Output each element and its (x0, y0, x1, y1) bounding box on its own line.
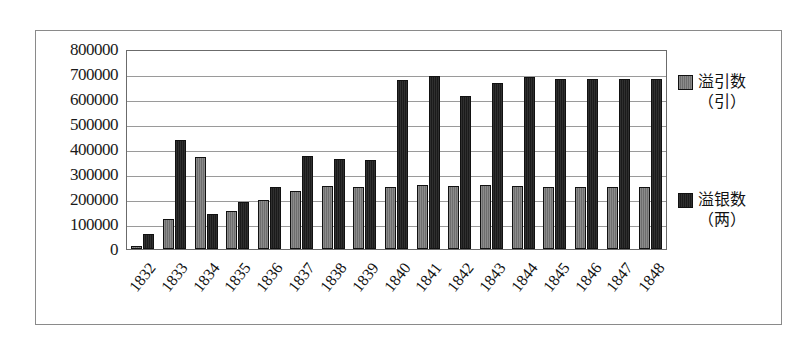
chart-root: 0100000200000300000400000500000600000700… (0, 0, 808, 348)
x-axis-tick-label: 1843 (476, 259, 510, 295)
bar-1844-series0 (512, 186, 523, 249)
bar-1845-series0 (543, 187, 554, 249)
bar-group (317, 51, 349, 249)
bar-group (381, 51, 413, 249)
x-axis-tick: 1832 (126, 252, 158, 312)
x-axis-tick-label: 1833 (158, 259, 192, 295)
x-axis-tick: 1847 (603, 252, 635, 312)
x-axis-tick-label: 1847 (603, 259, 637, 295)
bar-1843-series0 (480, 185, 491, 249)
bar-group (190, 51, 222, 249)
x-axis-tick: 1833 (158, 252, 190, 312)
legend-entry-yinshu: 溢引数 （引） (678, 72, 746, 112)
bar-group (603, 51, 635, 249)
bar-1836-series1 (270, 187, 281, 249)
x-axis-tick: 1839 (349, 252, 381, 312)
bar-1843-series1 (492, 83, 503, 249)
bar-1844-series1 (524, 77, 535, 249)
bar-1842-series1 (460, 96, 471, 249)
bar-1848-series1 (651, 79, 662, 249)
x-axis-tick: 1848 (635, 252, 667, 312)
legend-label-series1: 溢银数 （两） (698, 190, 746, 230)
bar-1846-series1 (587, 79, 598, 249)
y-axis-tick-label: 0 (110, 240, 118, 260)
bar-1835-series0 (226, 211, 237, 249)
legend-swatch-icon-series1 (678, 193, 693, 208)
bar-1835-series1 (238, 202, 249, 249)
y-axis-tick-label: 700000 (70, 65, 118, 85)
legend-label-series1-line2: （两） (698, 210, 746, 230)
y-axis-tick-label: 600000 (70, 90, 118, 110)
bar-group (507, 51, 539, 249)
x-axis-tick-label: 1840 (380, 259, 414, 295)
x-axis-tick-label: 1837 (285, 259, 319, 295)
x-axis-tick: 1846 (572, 252, 604, 312)
x-axis-tick: 1845 (540, 252, 572, 312)
bar-1845-series1 (555, 79, 566, 249)
legend-label-series1-line1: 溢银数 (698, 190, 746, 209)
bar-group (222, 51, 254, 249)
x-axis-tick: 1835 (221, 252, 253, 312)
bar-group (412, 51, 444, 249)
x-axis-labels: 1832183318341835183618371838183918401841… (126, 252, 667, 312)
bar-1834-series0 (195, 157, 206, 249)
bar-1839-series1 (365, 160, 376, 249)
bars-container (127, 51, 666, 249)
bar-group (127, 51, 159, 249)
bar-group (444, 51, 476, 249)
bar-group (539, 51, 571, 249)
x-axis-tick-label: 1836 (253, 259, 287, 295)
x-axis-tick-label: 1834 (189, 259, 223, 295)
bar-1834-series1 (207, 214, 218, 249)
legend-label-series0: 溢引数 （引） (698, 72, 746, 112)
bar-1832-series1 (143, 234, 154, 249)
bar-1837-series0 (290, 191, 301, 249)
y-axis-tick-label: 800000 (70, 40, 118, 60)
bar-1839-series0 (353, 187, 364, 249)
legend-entry-yinliang: 溢银数 （两） (678, 190, 746, 230)
x-axis-tick-label: 1845 (539, 259, 573, 295)
bar-1841-series0 (417, 185, 428, 249)
x-axis-tick-label: 1839 (348, 259, 382, 295)
y-axis-tick-label: 400000 (70, 140, 118, 160)
bar-1842-series0 (448, 186, 459, 249)
bar-1840-series0 (385, 187, 396, 249)
x-axis-tick: 1842 (444, 252, 476, 312)
x-axis-tick-label: 1841 (412, 259, 446, 295)
bar-group (476, 51, 508, 249)
x-axis-tick-label: 1835 (221, 259, 255, 295)
legend-swatch-icon-series0 (678, 75, 693, 90)
y-axis-tick-label: 300000 (70, 165, 118, 185)
bar-1847-series1 (619, 79, 630, 249)
bar-1847-series0 (607, 187, 618, 249)
bar-1840-series1 (397, 80, 408, 249)
bar-group (571, 51, 603, 249)
x-axis-tick-label: 1844 (508, 259, 542, 295)
bar-group (159, 51, 191, 249)
x-axis-tick: 1837 (285, 252, 317, 312)
x-axis-tick: 1836 (253, 252, 285, 312)
x-axis-tick-label: 1846 (571, 259, 605, 295)
bar-1838-series0 (322, 186, 333, 249)
bar-group (634, 51, 666, 249)
bar-1832-series0 (131, 246, 142, 249)
y-axis-tick-label: 200000 (70, 190, 118, 210)
bar-1838-series1 (334, 159, 345, 249)
bar-1836-series0 (258, 200, 269, 250)
y-axis-labels: 0100000200000300000400000500000600000700… (36, 50, 122, 250)
x-axis-tick-label: 1838 (317, 259, 351, 295)
x-axis-tick-label: 1832 (126, 259, 160, 295)
bar-group (254, 51, 286, 249)
bar-1841-series1 (429, 76, 440, 249)
x-axis-tick: 1843 (476, 252, 508, 312)
bar-group (349, 51, 381, 249)
x-axis-tick: 1844 (508, 252, 540, 312)
x-axis-tick: 1841 (412, 252, 444, 312)
legend-label-series0-line2: （引） (698, 92, 746, 112)
plot-wrapper (126, 50, 667, 250)
bar-1833-series0 (163, 219, 174, 249)
bar-group (286, 51, 318, 249)
y-axis-tick-label: 100000 (70, 215, 118, 235)
y-axis-tick-label: 500000 (70, 115, 118, 135)
bar-1833-series1 (175, 140, 186, 249)
